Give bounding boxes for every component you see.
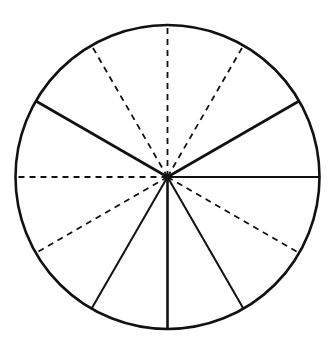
sector-diagram bbox=[0, 0, 336, 358]
center-point bbox=[165, 175, 170, 180]
